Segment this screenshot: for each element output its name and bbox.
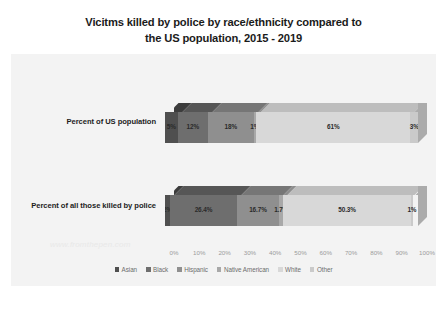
x-tick-label: 70% <box>345 249 357 256</box>
legend-item-asian[interactable]: Asian <box>115 266 138 273</box>
bar-segment-top-white <box>288 186 424 195</box>
x-tick-label: 40% <box>269 249 281 256</box>
x-tick-label: 20% <box>218 249 230 256</box>
legend-label: Native American <box>224 266 269 273</box>
legend-swatch-icon <box>146 267 151 272</box>
x-tick-label: 80% <box>370 249 382 256</box>
bar-segment-label: 1% <box>407 206 416 213</box>
legend-swatch-icon <box>278 267 283 272</box>
x-tick-label: 0% <box>170 249 179 256</box>
bar-segment-top-black <box>175 186 251 195</box>
x-tick-label: 50% <box>294 249 306 256</box>
bar-right-cap <box>418 186 427 226</box>
bar-front-face: 2%26.4%16.7%1.7%50.3%1% <box>165 195 418 226</box>
bar-segment-label: 3% <box>410 123 418 130</box>
legend-item-other[interactable]: Other <box>310 266 333 273</box>
bar-segment-label: 12% <box>187 123 200 130</box>
x-tick-label: 90% <box>395 249 407 256</box>
legend-item-native-american[interactable]: Native American <box>217 266 269 273</box>
legend-swatch-icon <box>310 267 315 272</box>
legend-label: Black <box>153 266 168 273</box>
bar-top-face <box>174 103 427 112</box>
chart-legend: AsianBlackHispanicNative AmericanWhiteOt… <box>11 266 436 273</box>
chart-title-line-2: the US population, 2015 - 2019 <box>28 30 419 46</box>
legend-item-hispanic[interactable]: Hispanic <box>177 266 208 273</box>
legend-label: Other <box>317 266 333 273</box>
x-tick-label: 10% <box>193 249 205 256</box>
bar-segment-label: 50.3% <box>338 206 356 213</box>
x-tick-label: 100% <box>419 249 435 256</box>
bar-segment-label: 16.7% <box>249 206 267 213</box>
legend-swatch-icon <box>217 267 222 272</box>
legend-swatch-icon <box>177 267 182 272</box>
legend-swatch-icon <box>115 267 120 272</box>
bar-segment-label: 26.4% <box>195 206 213 213</box>
bar-front-face: 5%12%18%1%61%3% <box>165 112 418 143</box>
x-tick-label: 60% <box>320 249 332 256</box>
chart-title: Vicitms killed by police by race/ethnici… <box>28 14 419 46</box>
legend-item-black[interactable]: Black <box>146 266 168 273</box>
category-label-population: Percent of US population <box>8 117 156 126</box>
chart-figure: Vicitms killed by police by race/ethnici… <box>0 0 447 310</box>
category-label-killed: Percent of all those killed by police <box>8 201 156 210</box>
chart-title-line-1: Vicitms killed by police by race/ethnici… <box>85 16 361 28</box>
bar-segment-top-white <box>261 103 424 112</box>
x-axis-ticks: 0%10%20%30%40%50%60%70%80%90%100% <box>165 249 427 259</box>
legend-label: Asian <box>122 266 138 273</box>
watermark: www.fromthepen.com <box>50 240 131 249</box>
bar-right-cap <box>418 103 427 143</box>
legend-label: Hispanic <box>184 266 208 273</box>
bar-segment-label: 5% <box>167 123 176 130</box>
bar-top-face <box>174 186 427 195</box>
x-tick-label: 30% <box>244 249 256 256</box>
bar-segment-label: 61% <box>327 123 340 130</box>
legend-label: White <box>285 266 301 273</box>
legend-item-white[interactable]: White <box>278 266 301 273</box>
bar-segment-label: 18% <box>225 123 238 130</box>
